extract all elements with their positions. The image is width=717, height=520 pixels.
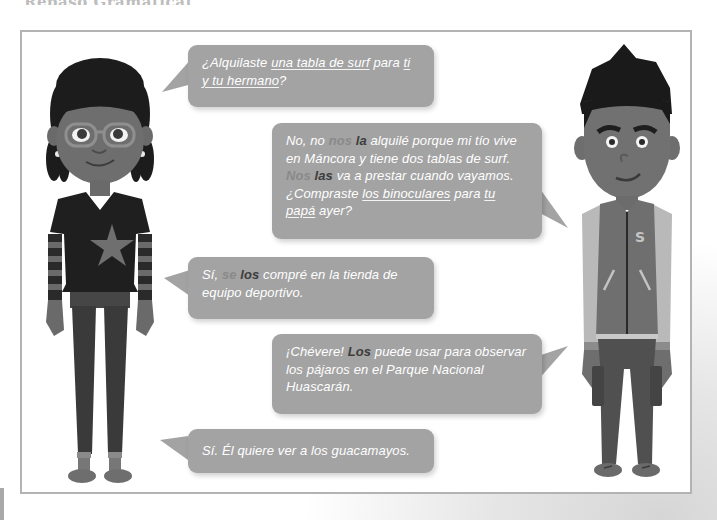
boy-character-illustration: S (572, 44, 682, 484)
speech-bubble-tail (538, 346, 568, 382)
bubble-text: No, no (286, 133, 329, 148)
indirect-object-pronoun: se (222, 267, 237, 282)
svg-text:S: S (635, 229, 645, 245)
bubble-text: ¡Chévere! (286, 344, 348, 359)
direct-object-pronoun: las (315, 168, 333, 183)
speech-bubble-4: ¡Chévere! Los puede usar para observar l… (272, 334, 542, 414)
speech-bubble-3: Sí, se los compré en la tienda de equipo… (188, 257, 434, 319)
bubble-text: para (450, 186, 484, 201)
bubble-text: Sí. Él quiere ver a los guacamayos. (202, 443, 410, 458)
direct-object-pronoun: la (356, 133, 367, 148)
bubble-text: para (370, 55, 404, 70)
speech-bubble-tail (538, 186, 568, 230)
girl-character-illustration (40, 44, 160, 484)
bubble-text: ¿Alquilaste (202, 55, 271, 70)
bubble-text: Sí, (202, 267, 222, 282)
direct-object-pronoun: los (240, 267, 259, 282)
indirect-object-pronoun: nos (329, 133, 352, 148)
speech-bubble-2: No, no nos la alquilé porque mi tío vive… (272, 123, 542, 239)
bubble-text: ? (279, 73, 286, 88)
underlined-phrase: los binoculares (362, 186, 450, 201)
bubble-text: ayer? (315, 203, 352, 218)
speech-bubble-1: ¿Alquilaste una tabla de surf para ti y … (188, 45, 434, 107)
direct-object-pronoun: Los (348, 344, 371, 359)
speech-bubble-5: Sí. Él quiere ver a los guacamayos. (188, 429, 434, 473)
page-edge-marker (0, 488, 4, 520)
underlined-phrase: una tabla de surf (271, 55, 370, 70)
indirect-object-pronoun: Nos (286, 168, 311, 183)
section-heading-cropped: Repaso Gramatical (24, 0, 192, 5)
